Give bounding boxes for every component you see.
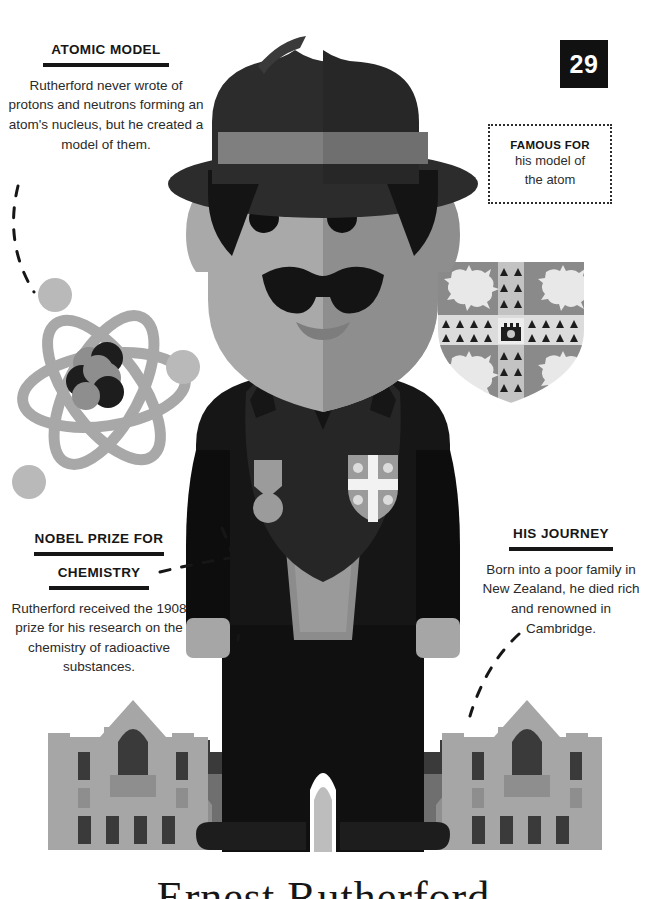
pointer-his-journey bbox=[470, 634, 519, 716]
title-underline bbox=[34, 552, 164, 556]
famous-for-title: FAMOUS FOR bbox=[510, 139, 590, 151]
castle-emblem bbox=[498, 318, 524, 344]
atom-nucleus bbox=[66, 342, 124, 410]
arm-right bbox=[416, 450, 460, 628]
callout-his-journey-title: HIS JOURNEY bbox=[476, 526, 646, 543]
callout-atomic-model-title: ATOMIC MODEL bbox=[8, 42, 204, 59]
coat-of-arms bbox=[430, 255, 594, 420]
callout-atomic-model: ATOMIC MODEL Rutherford never wrote of p… bbox=[8, 42, 204, 154]
building-right bbox=[442, 700, 602, 850]
atom-diagram bbox=[12, 278, 200, 499]
famous-for-line2: the atom bbox=[525, 172, 576, 189]
famous-for-box: FAMOUS FOR his model of the atom bbox=[488, 124, 612, 204]
arm-left bbox=[186, 450, 230, 628]
title-underline bbox=[509, 547, 613, 551]
ear-left bbox=[186, 196, 212, 272]
callout-atomic-model-body: Rutherford never wrote of protons and ne… bbox=[8, 76, 204, 154]
callout-his-journey-body: Born into a poor family in New Zealand, … bbox=[476, 560, 646, 638]
callout-nobel-prize: NOBEL PRIZE FOR CHEMISTRY Rutherford rec… bbox=[6, 531, 192, 677]
poster-canvas: 29 FAMOUS FOR his model of the atom ATOM… bbox=[0, 0, 647, 899]
famous-for-line1: his model of bbox=[515, 153, 585, 170]
subject-name-title: Ernest Rutherford bbox=[0, 876, 647, 899]
callout-nobel-prize-title-line1: NOBEL PRIZE FOR bbox=[6, 531, 192, 548]
callout-nobel-prize-title-line2: CHEMISTRY bbox=[6, 565, 192, 582]
title-underline-secondary bbox=[49, 586, 149, 590]
shoe-right bbox=[340, 822, 450, 850]
medal-disc bbox=[253, 493, 283, 523]
hand-left bbox=[186, 618, 230, 658]
title-underline bbox=[43, 63, 169, 67]
callout-nobel-prize-body: Rutherford received the 1908 prize for h… bbox=[6, 599, 192, 677]
page-number-value: 29 bbox=[570, 50, 599, 79]
hand-right bbox=[416, 618, 460, 658]
page-number-badge: 29 bbox=[560, 40, 608, 88]
shoe-left bbox=[196, 822, 306, 850]
pointer-atomic-model bbox=[14, 186, 34, 292]
building-left bbox=[48, 700, 208, 850]
figure-head bbox=[168, 36, 478, 412]
callout-his-journey: HIS JOURNEY Born into a poor family in N… bbox=[476, 526, 646, 638]
